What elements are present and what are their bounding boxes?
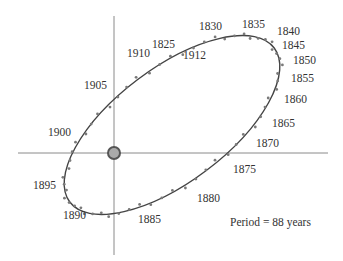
observation-dot [243, 33, 246, 36]
observation-dot [63, 197, 66, 200]
year-label: 1825 [152, 39, 175, 51]
observation-dot [204, 168, 207, 171]
observation-dot [68, 167, 71, 170]
observation-dot [271, 48, 274, 51]
observation-dot [195, 178, 198, 181]
year-label: 1855 [291, 73, 314, 85]
observation-dot [276, 72, 279, 75]
year-label: 1912 [183, 50, 206, 62]
observation-dot [71, 150, 74, 153]
observation-dot [100, 211, 103, 214]
observation-dot [128, 208, 131, 211]
year-label: 1835 [242, 19, 265, 31]
year-label: 1900 [48, 127, 71, 139]
observation-dot [91, 213, 94, 216]
year-label: 1895 [33, 180, 56, 192]
observation-dot [233, 35, 236, 38]
observation-dot [184, 187, 187, 190]
observation-dot [158, 63, 161, 66]
observation-dot [281, 64, 284, 67]
observation-dot [249, 37, 252, 40]
observation-dot [267, 97, 270, 100]
observation-dot [68, 201, 71, 204]
observation-dot [276, 80, 279, 83]
observation-dot [259, 115, 262, 118]
observation-dot [271, 40, 274, 43]
year-label: 1905 [84, 80, 107, 92]
observation-dot [85, 133, 88, 136]
orbit-diagram: 1830183518401845185018551860186518701875… [0, 0, 343, 261]
observation-dot [171, 189, 174, 192]
observation-dot [214, 159, 217, 162]
observation-dot [109, 106, 112, 109]
observation-dot [138, 203, 141, 206]
observation-dot [90, 123, 93, 126]
observation-dot [160, 197, 163, 200]
observation-dot [257, 37, 260, 40]
observation-dot [214, 36, 217, 39]
observation-dot [65, 189, 68, 192]
observation-dot [117, 212, 120, 215]
observation-dot [96, 113, 99, 116]
observation-dot [62, 176, 65, 179]
observation-points [62, 33, 284, 219]
year-label: 1860 [284, 94, 307, 106]
observation-dot [275, 88, 278, 91]
observation-dot [148, 72, 151, 75]
period-label: Period = 88 years [230, 216, 311, 228]
year-label: 1910 [127, 48, 150, 60]
year-label: 1875 [233, 164, 256, 176]
year-label: 1865 [272, 118, 295, 130]
year-label: 1880 [197, 193, 220, 205]
observation-dot [254, 126, 257, 129]
observation-dot [203, 41, 206, 44]
observation-dot [135, 76, 138, 79]
year-label: 1840 [277, 26, 300, 38]
year-label: 1830 [199, 21, 222, 33]
observation-dot [242, 133, 245, 136]
year-label: 1870 [256, 138, 279, 150]
observation-dot [279, 57, 282, 60]
observation-dot [73, 204, 76, 207]
observation-dot [117, 96, 120, 99]
observation-dot [235, 143, 238, 146]
observation-dot [107, 215, 110, 218]
observation-dot [69, 159, 72, 162]
observation-dot [275, 52, 278, 55]
observation-dot [223, 38, 226, 41]
year-label: 1850 [293, 55, 316, 67]
year-label: 1890 [63, 210, 86, 222]
observation-dot [264, 38, 267, 41]
year-label: 1885 [138, 214, 161, 226]
observation-dot [74, 141, 77, 144]
observation-dot [169, 55, 172, 58]
observation-dot [125, 86, 128, 89]
observation-dot [227, 153, 230, 156]
observation-dot [149, 203, 152, 206]
observation-dot [63, 183, 66, 186]
observation-dot [264, 106, 267, 109]
sun-icon [107, 146, 121, 160]
year-label: 1845 [282, 40, 305, 52]
